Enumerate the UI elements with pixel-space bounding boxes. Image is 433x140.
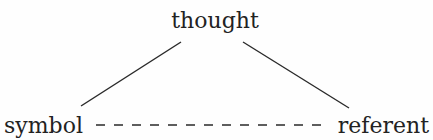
node-thought: thought (171, 8, 259, 33)
semiotic-triangle-diagram: thought symbol referent (0, 0, 433, 140)
edge-thought-referent (243, 42, 349, 108)
node-symbol: symbol (4, 113, 83, 138)
diagram-svg: thought symbol referent (0, 0, 433, 140)
edge-symbol-thought (81, 42, 181, 106)
node-referent: referent (338, 113, 429, 138)
